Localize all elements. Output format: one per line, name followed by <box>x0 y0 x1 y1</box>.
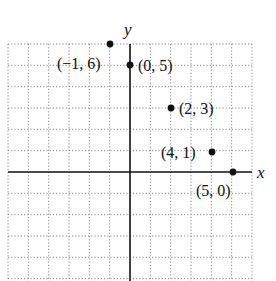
x-axis-label: x <box>256 163 265 182</box>
coordinate-plane: x y (−1, 6) (0, 5) (2, 3) (4, 1) (5, 0) <box>0 0 276 281</box>
point-label: (5, 0) <box>196 182 231 200</box>
point-0-5: (0, 5) <box>127 57 173 75</box>
point-neg1-6: (−1, 6) <box>57 41 113 73</box>
y-axis-label: y <box>122 20 132 39</box>
point-label: (−1, 6) <box>57 55 101 73</box>
point-marker <box>230 169 237 176</box>
point-marker <box>209 149 216 156</box>
point-marker <box>127 62 134 69</box>
point-label: (4, 1) <box>161 144 196 162</box>
point-marker <box>168 105 175 112</box>
point-label: (0, 5) <box>138 57 173 75</box>
point-2-3: (2, 3) <box>168 100 214 118</box>
point-marker <box>107 41 114 48</box>
point-4-1: (4, 1) <box>161 144 215 162</box>
point-5-0: (5, 0) <box>196 169 236 200</box>
point-label: (2, 3) <box>179 100 214 118</box>
